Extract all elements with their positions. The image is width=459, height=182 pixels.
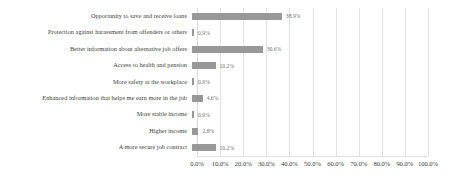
x-tick-label: 100.0%: [418, 160, 438, 167]
x-tick-label: 0.0%: [190, 160, 204, 167]
bar-row: Higher income2.8%: [0, 123, 459, 139]
x-tick-label: 40.0%: [281, 160, 298, 167]
bar[interactable]: [192, 144, 216, 151]
category-label: Opportunity to save and receive loans: [0, 13, 192, 20]
bar-track: 0.9%: [192, 74, 423, 90]
bar-value-label: 0.9%: [198, 112, 210, 118]
bar[interactable]: [192, 78, 194, 85]
bar-track: 10.2%: [192, 140, 423, 156]
bar-value-label: 38.9%: [286, 13, 301, 19]
bar-rows: Opportunity to save and receive loans38.…: [0, 8, 459, 156]
bar[interactable]: [192, 62, 216, 69]
category-label: More stable income: [0, 111, 192, 118]
bar-row: Enhanced information that helps me earn …: [0, 90, 459, 106]
x-tick-label: 50.0%: [304, 160, 321, 167]
x-tick-label: 20.0%: [235, 160, 252, 167]
bar-track: 10.2%: [192, 57, 423, 73]
category-label: A more secure job contract: [0, 144, 192, 151]
x-tick-label: 70.0%: [350, 160, 367, 167]
bar-row: Access to health and pension10.2%: [0, 57, 459, 73]
bar[interactable]: [192, 13, 282, 20]
bar[interactable]: [192, 95, 203, 102]
horizontal-bar-chart: Opportunity to save and receive loans38.…: [0, 0, 459, 182]
bar-value-label: 0.9%: [198, 30, 210, 36]
bar-value-label: 4.6%: [207, 95, 219, 101]
bar-value-label: 0.9%: [198, 79, 210, 85]
category-label: Access to health and pension: [0, 62, 192, 69]
x-tick-label: 60.0%: [327, 160, 344, 167]
bar-track: 38.9%: [192, 8, 423, 24]
bar[interactable]: [192, 46, 263, 53]
bar-row: A more secure job contract10.2%: [0, 140, 459, 156]
category-label: Better information about alternative job…: [0, 46, 192, 53]
bar[interactable]: [192, 128, 198, 135]
bar-value-label: 10.2%: [220, 63, 235, 69]
x-axis-line: [197, 156, 428, 157]
bar-row: More safety at the workplace0.9%: [0, 74, 459, 90]
category-label: Enhanced information that helps me earn …: [0, 95, 192, 102]
x-tick-label: 80.0%: [373, 160, 390, 167]
bar-track: 4.6%: [192, 90, 423, 106]
category-label: Higher income: [0, 128, 192, 135]
bar-row: More stable income0.9%: [0, 107, 459, 123]
bar[interactable]: [192, 29, 194, 36]
x-axis-tick-labels: 0.0%10.0%20.0%30.0%40.0%50.0%60.0%70.0%8…: [197, 160, 428, 174]
category-label: More safety at the workplace: [0, 79, 192, 86]
x-tick-label: 30.0%: [258, 160, 275, 167]
plot-area: Opportunity to save and receive loans38.…: [0, 0, 459, 182]
x-tick-label: 90.0%: [396, 160, 413, 167]
bar[interactable]: [192, 111, 194, 118]
bar-row: Better information about alternative job…: [0, 41, 459, 57]
bar-row: Opportunity to save and receive loans38.…: [0, 8, 459, 24]
bar-value-label: 30.6%: [267, 46, 282, 52]
bar-track: 2.8%: [192, 123, 423, 139]
bar-track: 0.9%: [192, 24, 423, 40]
bar-value-label: 2.8%: [202, 128, 214, 134]
category-label: Protection against harassment from offen…: [0, 29, 192, 36]
bar-track: 30.6%: [192, 41, 423, 57]
bar-value-label: 10.2%: [220, 145, 235, 151]
bar-row: Protection against harassment from offen…: [0, 24, 459, 40]
bar-track: 0.9%: [192, 107, 423, 123]
x-tick-label: 10.0%: [212, 160, 229, 167]
